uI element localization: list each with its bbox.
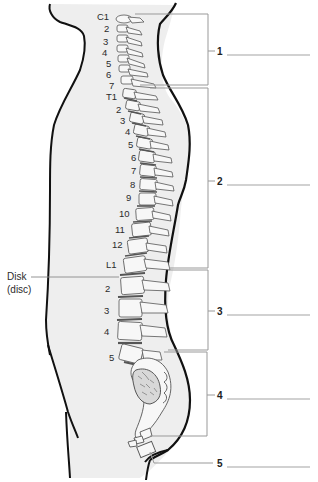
region-number-4: 4 — [217, 390, 223, 401]
region-number-1: 1 — [217, 46, 223, 57]
label-c4: 4 — [102, 47, 107, 58]
label-t9: 9 — [126, 192, 131, 203]
label-t12: 12 — [112, 239, 123, 250]
label-c3: 3 — [103, 36, 108, 47]
label-t11: 11 — [115, 224, 125, 235]
label-l1: L1 — [106, 259, 117, 270]
spine-diagram: C1 2 3 4 5 6 7 T1 2 3 4 5 6 7 8 9 10 11 … — [0, 0, 318, 482]
label-t5: 5 — [128, 139, 133, 150]
label-t4: 4 — [125, 126, 130, 137]
region-number-5: 5 — [217, 458, 223, 469]
label-c6: 6 — [106, 69, 111, 80]
label-t8: 8 — [130, 179, 135, 190]
region-labels: 1 2 3 4 5 — [217, 46, 310, 469]
region-number-3: 3 — [217, 306, 223, 317]
label-l5: 5 — [109, 352, 114, 363]
disk-label-alt: (disc) — [7, 284, 31, 295]
label-c7: 7 — [109, 80, 114, 91]
label-t6: 6 — [131, 152, 136, 163]
disk-label: Disk — [7, 271, 27, 282]
label-c1: C1 — [97, 11, 109, 22]
label-t3: 3 — [120, 115, 125, 126]
label-l3: 3 — [104, 305, 109, 316]
label-l2: 2 — [105, 283, 110, 294]
label-t10: 10 — [119, 208, 130, 219]
label-t7: 7 — [131, 165, 136, 176]
label-t1: T1 — [106, 91, 117, 102]
label-c2: 2 — [104, 23, 109, 34]
label-t2: 2 — [116, 104, 121, 115]
region-number-2: 2 — [217, 176, 223, 187]
bracket-3 — [168, 270, 208, 350]
label-l4: 4 — [104, 326, 109, 337]
label-c5: 5 — [106, 58, 111, 69]
